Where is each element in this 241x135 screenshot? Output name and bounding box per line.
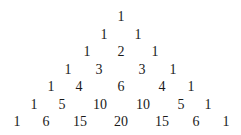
triangle-entry: 6 (43, 115, 50, 129)
triangle-entry: 4 (159, 80, 166, 94)
triangle-entry: 20 (114, 115, 128, 129)
triangle-entry: 3 (96, 63, 103, 77)
triangle-entry: 1 (188, 80, 195, 94)
triangle-entry: 6 (118, 80, 125, 94)
triangle-entry: 1 (84, 45, 91, 59)
triangle-entry: 1 (31, 98, 38, 112)
triangle-entry: 1 (65, 63, 72, 77)
triangle-entry: 15 (73, 115, 87, 129)
triangle-entry: 1 (152, 45, 159, 59)
triangle-entry: 1 (223, 115, 230, 129)
triangle-entry: 1 (135, 28, 142, 42)
triangle-entry: 3 (139, 63, 146, 77)
triangle-entry: 4 (76, 80, 83, 94)
triangle-entry: 1 (14, 115, 21, 129)
triangle-entry: 1 (205, 98, 212, 112)
triangle-entry: 2 (118, 45, 125, 59)
triangle-entry: 6 (193, 115, 200, 129)
triangle-entry: 1 (48, 80, 55, 94)
triangle-entry: 1 (170, 63, 177, 77)
triangle-entry: 1 (101, 28, 108, 42)
triangle-entry: 10 (136, 98, 150, 112)
pascals-triangle: 111121133114641151010511615201561 (0, 0, 241, 135)
triangle-entry: 1 (118, 10, 125, 24)
triangle-entry: 5 (59, 98, 66, 112)
triangle-entry: 10 (93, 98, 107, 112)
triangle-entry: 15 (155, 115, 169, 129)
triangle-entry: 5 (178, 98, 185, 112)
